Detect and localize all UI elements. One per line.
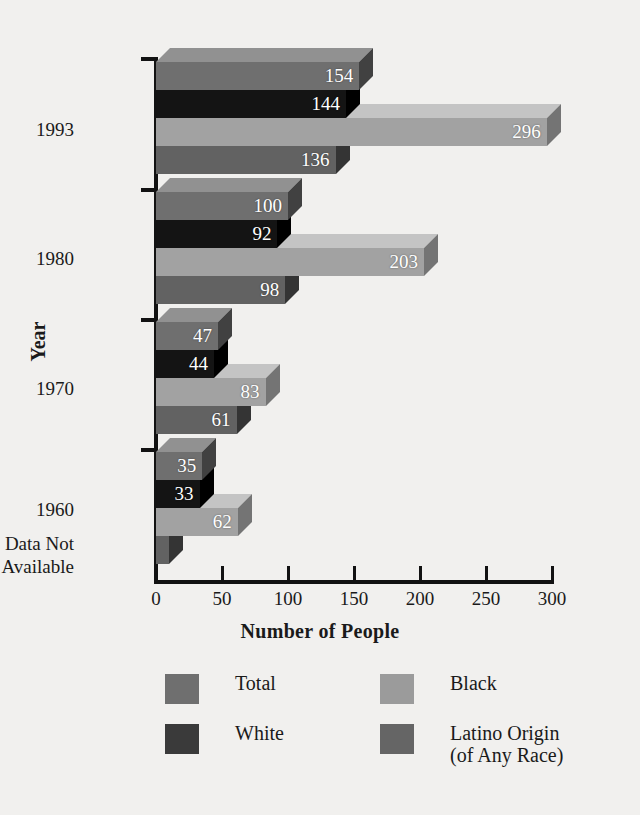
bar-1970-total: 47 bbox=[156, 308, 218, 336]
x-tick-label-50: 50 bbox=[192, 588, 252, 610]
bar-value-label: 296 bbox=[512, 118, 541, 146]
x-tick-label-300: 300 bbox=[522, 588, 582, 610]
x-tick-label-0: 0 bbox=[126, 588, 186, 610]
legend-label-latino: Latino Origin (of Any Race) bbox=[450, 722, 563, 767]
y-axis-title: Year bbox=[27, 282, 50, 402]
bar-value-label: 47 bbox=[193, 322, 212, 350]
x-axis-tick bbox=[419, 566, 422, 581]
bar-value-label: 83 bbox=[241, 378, 260, 406]
legend-label-black: Black bbox=[450, 672, 497, 694]
bar-value-label: 33 bbox=[175, 480, 194, 508]
bar-1960-total: 35 bbox=[156, 438, 202, 466]
y-axis-tick bbox=[141, 188, 155, 192]
y-tick-label-1980: 1980 bbox=[36, 249, 74, 269]
bar-value-label: 35 bbox=[177, 452, 196, 480]
bar-1993-total: 154 bbox=[156, 48, 359, 76]
x-axis-title: Number of People bbox=[0, 620, 640, 643]
bar-1980-total: 100 bbox=[156, 178, 288, 206]
legend-row: White Latino Origin (of Any Race) bbox=[165, 722, 595, 767]
bar-value-label: 98 bbox=[260, 276, 279, 304]
bar-value-label: 62 bbox=[213, 508, 232, 536]
y-axis-tick bbox=[141, 448, 155, 452]
bar-value-label: 100 bbox=[254, 192, 283, 220]
y-tick-label-1993: 1993 bbox=[36, 120, 74, 140]
bar-front-face bbox=[156, 536, 169, 564]
legend-item-white[interactable]: White bbox=[165, 722, 380, 754]
legend-swatch-black bbox=[380, 674, 414, 704]
y-axis-footnote-line1: Data Not bbox=[5, 534, 74, 554]
bar-top-face bbox=[156, 178, 302, 192]
bar-value-label: 61 bbox=[212, 406, 231, 434]
x-axis-tick bbox=[221, 566, 224, 581]
legend-item-total[interactable]: Total bbox=[165, 672, 380, 704]
legend-label-white: White bbox=[235, 722, 284, 744]
chart-page: 1993 1980 1970 1960 Data Not Available Y… bbox=[0, 0, 640, 815]
legend-item-black[interactable]: Black bbox=[380, 672, 595, 704]
x-axis-tick bbox=[287, 566, 290, 581]
bar-value-label: 203 bbox=[389, 248, 418, 276]
bar-value-label: 136 bbox=[301, 146, 330, 174]
legend-swatch-latino bbox=[380, 724, 414, 754]
x-tick-label-150: 150 bbox=[324, 588, 384, 610]
bar-front-face bbox=[156, 118, 547, 146]
legend-item-latino[interactable]: Latino Origin (of Any Race) bbox=[380, 722, 595, 767]
x-axis-tick bbox=[551, 566, 554, 581]
bar-value-label: 44 bbox=[189, 350, 208, 378]
x-tick-label-200: 200 bbox=[390, 588, 450, 610]
bar-front-face bbox=[156, 248, 424, 276]
bar-top-face bbox=[156, 48, 373, 62]
x-axis-tick bbox=[353, 566, 356, 581]
legend-label-total: Total bbox=[235, 672, 276, 694]
y-axis-tick bbox=[141, 318, 155, 322]
x-tick-label-250: 250 bbox=[456, 588, 516, 610]
legend-row: Total Black bbox=[165, 672, 595, 704]
legend-swatch-white bbox=[165, 724, 199, 754]
bar-value-label: 154 bbox=[325, 62, 354, 90]
bar-value-label: 144 bbox=[312, 90, 341, 118]
bar-value-label: 92 bbox=[252, 220, 271, 248]
y-axis-tick bbox=[141, 57, 155, 61]
y-axis-footnote-line2: Available bbox=[2, 557, 74, 577]
x-axis-tick bbox=[155, 566, 158, 581]
x-tick-label-100: 100 bbox=[258, 588, 318, 610]
chart-legend: Total Black White Latino Origin (of Any … bbox=[165, 672, 595, 785]
y-tick-label-1960: 1960 bbox=[36, 500, 74, 520]
legend-swatch-total bbox=[165, 674, 199, 704]
x-axis-tick bbox=[485, 566, 488, 581]
